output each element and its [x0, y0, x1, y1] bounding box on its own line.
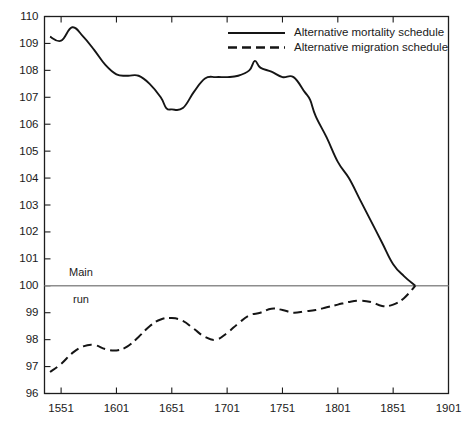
y-axis-tick-label: 98 [26, 333, 39, 345]
baseline-label-top: Main [69, 266, 93, 278]
x-axis-ticks-group [61, 17, 393, 394]
x-axis-labels-group: 15511601165117011751180118511901 [48, 402, 461, 414]
y-axis-tick-label: 109 [19, 37, 38, 49]
y-axis-tick-label: 101 [19, 252, 38, 264]
x-axis-tick-label: 1801 [325, 402, 351, 414]
y-axis-tick-label: 106 [19, 118, 38, 130]
baseline-label-bottom: run [73, 293, 89, 305]
y-axis-tick-label: 108 [19, 64, 38, 76]
x-axis-tick-label: 1851 [380, 402, 406, 414]
x-axis-tick-label: 1601 [104, 402, 130, 414]
legend-label-1: Alternative mortality schedule [294, 26, 444, 38]
x-axis-tick-label: 1901 [436, 402, 462, 414]
series-line-2 [50, 286, 415, 372]
y-axis-tick-label: 99 [26, 306, 39, 318]
y-axis-tick-label: 104 [19, 172, 39, 184]
chart-figure: 9697989910010110210310410510610710810911… [0, 0, 472, 425]
y-axis-tick-label: 103 [19, 199, 38, 211]
series-line-1 [50, 27, 415, 286]
series-group [50, 27, 415, 372]
y-axis-labels-group: 9697989910010110210310410510610710810911… [19, 10, 39, 399]
y-axis-tick-label: 107 [19, 91, 38, 103]
y-axis-ticks-group [45, 17, 51, 394]
y-axis-tick-label: 110 [20, 10, 38, 22]
legend-label-2: Alternative migration schedule [294, 41, 448, 53]
y-axis-tick-label: 96 [26, 387, 39, 399]
x-axis-tick-label: 1651 [159, 402, 185, 414]
x-axis-tick-label: 1551 [48, 402, 74, 414]
legend-group: Alternative mortality scheduleAlternativ… [228, 26, 448, 53]
y-axis-tick-label: 100 [19, 279, 38, 291]
y-axis-tick-label: 97 [26, 360, 39, 372]
line-chart: 9697989910010110210310410510610710810911… [0, 0, 472, 425]
y-axis-tick-label: 105 [19, 145, 38, 157]
x-axis-tick-label: 1701 [214, 402, 240, 414]
y-axis-tick-label: 102 [19, 225, 38, 237]
x-axis-tick-label: 1751 [270, 402, 296, 414]
